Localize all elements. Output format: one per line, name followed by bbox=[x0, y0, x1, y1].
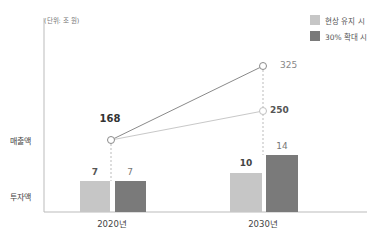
legend-label-keep: 현상 유지 시 bbox=[325, 15, 365, 26]
legend-label-expand: 30% 확대 시 bbox=[325, 31, 367, 42]
line-expand bbox=[111, 66, 263, 140]
marker-2020 bbox=[108, 137, 115, 144]
bar-2030-keep bbox=[230, 173, 262, 212]
value-rev-2030-expand: 325 bbox=[280, 60, 297, 70]
legend-item-keep: 현상 유지 시 bbox=[310, 12, 367, 28]
marker-2030-expand bbox=[260, 63, 267, 70]
value-rev-2030-keep: 250 bbox=[270, 105, 289, 115]
value-inv-2030-keep: 10 bbox=[240, 158, 253, 168]
unit-label: (단위: 조 원) bbox=[44, 15, 79, 25]
value-rev-2020: 168 bbox=[100, 113, 121, 124]
legend-item-expand: 30% 확대 시 bbox=[310, 28, 367, 44]
row-label-investment: 투자액 bbox=[10, 191, 31, 202]
bar-2030-expand bbox=[266, 155, 298, 212]
bar-2020-keep bbox=[80, 181, 110, 212]
bar-2020-expand bbox=[115, 181, 146, 212]
row-label-revenue: 매출액 bbox=[10, 135, 31, 146]
legend-swatch-keep bbox=[310, 15, 320, 25]
x-label-2020: 2020년 bbox=[97, 217, 127, 229]
value-inv-2020-expand: 7 bbox=[127, 167, 133, 177]
line-keep bbox=[111, 111, 263, 140]
legend: 현상 유지 시 30% 확대 시 bbox=[310, 12, 367, 44]
legend-swatch-expand bbox=[310, 31, 320, 41]
value-inv-2030-expand: 14 bbox=[276, 141, 287, 151]
x-label-2030: 2030년 bbox=[248, 217, 278, 229]
marker-2030-keep bbox=[260, 108, 267, 115]
value-inv-2020-keep: 7 bbox=[92, 167, 98, 177]
chart-area: (단위: 조 원) 현상 유지 시 30% 확대 시 매출액 투자액 2020년… bbox=[0, 0, 377, 239]
